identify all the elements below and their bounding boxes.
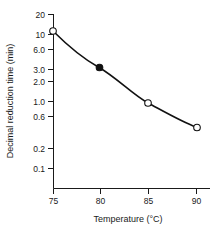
y-tick-label-6: 6.0 <box>33 45 45 55</box>
y-tick-label-3: 3.0 <box>33 65 45 75</box>
x-tick-label-90: 90 <box>192 196 202 206</box>
data-curve <box>53 31 197 128</box>
y-tick-label-20: 20 <box>36 10 46 20</box>
data-point-85 <box>145 100 152 107</box>
y-tick-label-0-1: 0.1 <box>33 164 45 174</box>
x-axis-title: Temperature (°C) <box>93 214 162 224</box>
x-tick-label-85: 85 <box>144 196 154 206</box>
data-point-90 <box>194 124 201 131</box>
y-tick-label-1: 1.0 <box>33 97 45 107</box>
chart-figure: 20 10 6.0 3.0 2.0 1.0 0.6 0.2 0.1 75 80 … <box>0 0 218 229</box>
x-tick-marks <box>54 189 197 195</box>
y-tick-label-0-2: 0.2 <box>33 144 45 154</box>
y-tick-label-2: 2.0 <box>33 77 45 87</box>
data-point-80 <box>96 64 103 71</box>
y-tick-label-0-6: 0.6 <box>33 112 45 122</box>
data-points <box>50 28 201 131</box>
y-axis-title: Decimal reduction time (min) <box>5 44 15 159</box>
data-point-75 <box>50 28 57 35</box>
x-tick-label-80: 80 <box>96 196 106 206</box>
y-tick-labels: 20 10 6.0 3.0 2.0 1.0 0.6 0.2 0.1 <box>33 10 45 174</box>
y-tick-label-10: 10 <box>36 30 46 40</box>
decimal-reduction-time-chart: 20 10 6.0 3.0 2.0 1.0 0.6 0.2 0.1 75 80 … <box>0 0 218 229</box>
x-tick-labels: 75 80 85 90 <box>49 196 202 206</box>
x-tick-label-75: 75 <box>49 196 59 206</box>
y-tick-marks <box>48 15 54 169</box>
